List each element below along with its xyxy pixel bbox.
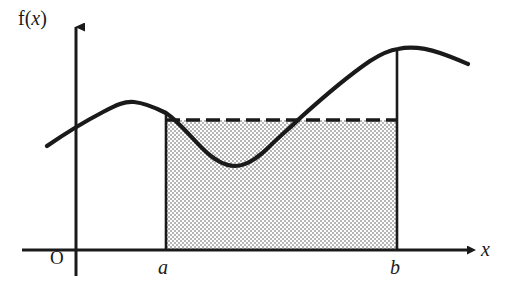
upper-bound-label-b: b	[390, 257, 400, 277]
origin-label: O	[50, 248, 64, 267]
x-axis-label: x	[481, 239, 490, 259]
y-axis-label: f(x)	[18, 8, 47, 28]
shaded-region	[166, 120, 397, 250]
lower-bound-label-a: a	[158, 257, 168, 277]
function-graph-figure	[0, 0, 512, 290]
